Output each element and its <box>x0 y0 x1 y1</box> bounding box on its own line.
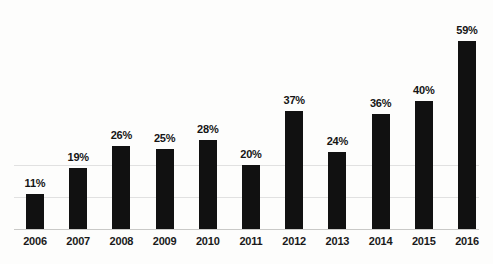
bar[interactable] <box>328 152 346 229</box>
bar-value-label: 36% <box>361 97 401 109</box>
x-tick-label: 2016 <box>445 235 489 247</box>
bar[interactable] <box>285 111 303 229</box>
bar-value-label: 37% <box>274 94 314 106</box>
x-tick-label: 2006 <box>13 235 57 247</box>
bar-value-label: 11% <box>15 177 55 189</box>
bar[interactable] <box>415 101 433 229</box>
bar-value-label: 59% <box>447 24 487 36</box>
x-axis-line <box>14 229 479 230</box>
bar-chart: 11%200619%200726%200825%200928%201020%20… <box>0 0 493 264</box>
x-tick-label: 2007 <box>56 235 100 247</box>
bar[interactable] <box>156 149 174 229</box>
bar[interactable] <box>112 146 130 229</box>
plot-area <box>0 0 493 229</box>
x-tick-label: 2015 <box>402 235 446 247</box>
x-tick-label: 2014 <box>359 235 403 247</box>
bar-value-label: 19% <box>58 151 98 163</box>
bar-value-label: 24% <box>317 135 357 147</box>
bar[interactable] <box>26 194 44 229</box>
bar-value-label: 20% <box>231 148 271 160</box>
bar[interactable] <box>199 140 217 229</box>
x-tick-label: 2013 <box>315 235 359 247</box>
x-tick-label: 2010 <box>186 235 230 247</box>
x-tick-label: 2009 <box>143 235 187 247</box>
x-tick-label: 2011 <box>229 235 273 247</box>
x-tick-label: 2008 <box>99 235 143 247</box>
bar[interactable] <box>372 114 390 229</box>
x-tick-label: 2012 <box>272 235 316 247</box>
bar[interactable] <box>242 165 260 229</box>
bar[interactable] <box>69 168 87 229</box>
bar-value-label: 26% <box>101 129 141 141</box>
bar-value-label: 28% <box>188 123 228 135</box>
bar-value-label: 25% <box>145 132 185 144</box>
bar-value-label: 40% <box>404 84 444 96</box>
bar[interactable] <box>458 41 476 229</box>
